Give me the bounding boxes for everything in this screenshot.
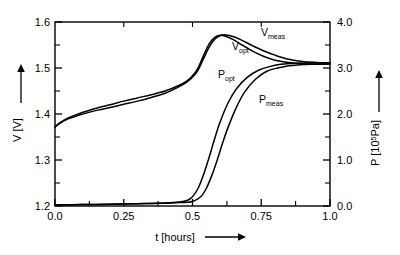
curve-v-opt [55, 35, 330, 127]
y-axis-left-title: V [V] [11, 118, 23, 142]
curve-p-meas [55, 64, 330, 205]
x-axis-arrow-icon [238, 233, 246, 241]
svg-text:Popt: Popt [218, 68, 235, 83]
curve-annotation-p-meas: Pmeas [259, 93, 284, 107]
ytick-right-2: 2.0 [337, 108, 352, 120]
x-axis-title-group: t [hours] [155, 231, 246, 243]
y-right-arrow-icon [375, 70, 383, 78]
y-right-title-group: P [105Pa] [369, 70, 383, 166]
ytick-left-4: 1.6 [35, 16, 50, 28]
top-axis-ticks [124, 22, 262, 27]
label-p-opt-sub: opt [225, 75, 235, 83]
label-p-opt-main: P [218, 68, 225, 80]
label-p-meas-sub: meas [266, 100, 284, 107]
right-axis-tick-labels: 0.0 1.0 2.0 3.0 4.0 [337, 16, 352, 212]
label-v-meas-main: V [261, 26, 268, 38]
right-axis-ticks [323, 22, 330, 206]
ytick-right-4: 4.0 [337, 16, 352, 28]
ytick-right-0: 0.0 [337, 200, 352, 212]
label-v-opt-main: V [232, 40, 239, 52]
y-right-title-tail: Pa] [369, 120, 381, 137]
svg-text:Pmeas: Pmeas [259, 93, 284, 107]
left-axis-tick-labels: 1.2 1.3 1.4 1.5 1.6 [35, 16, 50, 212]
curve-annotation-v-meas: Vmeas [261, 26, 286, 40]
curve-annotation-p-opt: Popt [218, 68, 235, 83]
y-left-arrow-icon [17, 64, 25, 72]
xtick-4: 1.0 [322, 210, 337, 222]
data-curves [55, 35, 330, 205]
label-p-meas-main: P [259, 93, 266, 105]
chart-svg: 1.2 1.3 1.4 1.5 1.6 0.0 1.0 2.0 3.0 4.0 [0, 0, 400, 255]
curve-v-meas [55, 35, 330, 127]
x-axis-tick-labels: 0.0 0.25 0.5 0.75 1.0 [47, 210, 337, 222]
label-v-meas-sub: meas [268, 33, 286, 40]
y-axis-right-title: P [105Pa] [369, 120, 381, 166]
y-right-title-main: P [10 [369, 140, 381, 166]
xtick-0: 0.0 [47, 210, 62, 222]
x-axis-title: t [hours] [155, 231, 195, 243]
xtick-3: 0.75 [251, 210, 272, 222]
ytick-left-3: 1.5 [35, 62, 50, 74]
xtick-2: 0.5 [185, 210, 200, 222]
curve-p-opt [55, 63, 330, 205]
ytick-left-1: 1.3 [35, 154, 50, 166]
label-v-opt-sub: opt [239, 47, 249, 55]
y-left-title-group: V [V] [11, 64, 25, 142]
ytick-right-1: 1.0 [337, 154, 352, 166]
xtick-1: 0.25 [113, 210, 134, 222]
ytick-right-3: 3.0 [337, 62, 352, 74]
chart-figure: 1.2 1.3 1.4 1.5 1.6 0.0 1.0 2.0 3.0 4.0 [0, 0, 400, 255]
left-axis-ticks [55, 22, 62, 206]
svg-text:Vmeas: Vmeas [261, 26, 286, 40]
plot-frame [55, 22, 330, 206]
ytick-left-2: 1.4 [35, 108, 50, 120]
